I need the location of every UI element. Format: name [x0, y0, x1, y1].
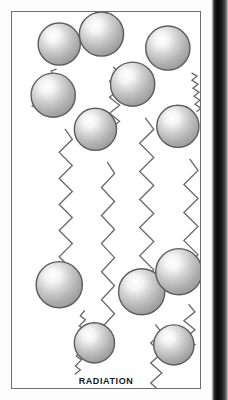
page-edge-band	[211, 0, 228, 400]
sphere-top-3	[146, 26, 190, 70]
sphere-bot-1	[74, 323, 114, 363]
radiation-diagram	[12, 12, 200, 388]
sphere-mid-4	[157, 105, 199, 147]
radiation-caption: RADIATION	[12, 376, 200, 386]
wave-travel-2	[101, 162, 114, 339]
sphere-mid-3	[74, 108, 116, 150]
wave-emit-top-3	[192, 73, 200, 111]
wave-travel-3	[140, 118, 154, 279]
sphere-group	[31, 12, 200, 365]
figure-frame: RADIATION	[11, 11, 201, 389]
sphere-top-2	[79, 12, 123, 56]
sphere-low-1	[36, 262, 82, 308]
sphere-low-3	[156, 249, 200, 295]
sphere-bot-2	[154, 325, 194, 365]
figure-page: RADIATION	[0, 0, 228, 400]
sphere-top-1	[38, 23, 80, 65]
sphere-mid-1	[31, 73, 75, 117]
wave-travel-1	[59, 129, 72, 278]
sphere-mid-2	[111, 62, 155, 106]
